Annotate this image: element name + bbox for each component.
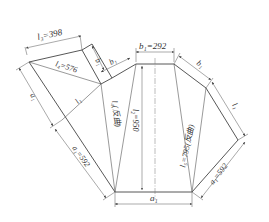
label-l5-bend: l₅=795(反曲) xyxy=(178,123,196,168)
label-l1-right: l₁ xyxy=(230,101,240,110)
label-l3: l₃=398 xyxy=(36,27,63,42)
label-l1-left: l₁ xyxy=(73,95,83,105)
label-l4-bend: l₄(反曲) xyxy=(110,100,123,128)
inner-lines xyxy=(29,58,226,200)
label-l4: l₄=576 xyxy=(54,59,78,74)
label-l2: l₂=950 xyxy=(131,109,140,131)
label-b1-right: b₁ xyxy=(195,58,206,69)
label-b1-top: b₁=292 xyxy=(139,41,167,51)
label-a1-left-dim: a₁=592 xyxy=(70,144,91,169)
label-b1-left-inner: b₁ xyxy=(108,55,119,66)
unfolding-diagram: l₃=398 l₄=576 b₁ b₁ b₁=292 b₁ l₁ l₁ a₁ a… xyxy=(0,0,269,222)
label-a1-right-dim: a₁=592 xyxy=(207,162,229,187)
label-a1-bottom: a₁ xyxy=(150,193,158,203)
label-b1-left: b₁ xyxy=(93,57,104,68)
labels: l₃=398 l₄=576 b₁ b₁ b₁=292 b₁ l₁ l₁ a₁ a… xyxy=(28,27,240,203)
